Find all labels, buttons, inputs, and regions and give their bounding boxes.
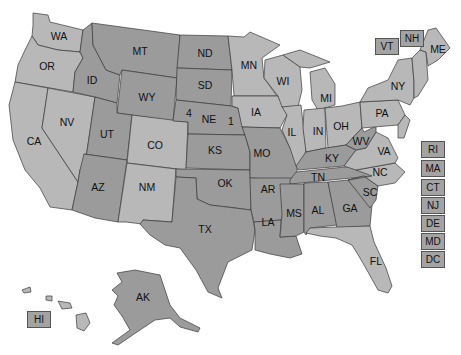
label-ak: AK bbox=[136, 291, 150, 303]
label-ne-district-1: 1 bbox=[228, 115, 234, 127]
label-mo: MO bbox=[254, 147, 271, 159]
label-tx: TX bbox=[198, 223, 211, 235]
label-wa: WA bbox=[51, 30, 68, 42]
label-mi: MI bbox=[320, 92, 332, 104]
state-hi-2[interactable] bbox=[46, 296, 52, 301]
label-ga: GA bbox=[342, 202, 357, 214]
label-ne-district-4: 4 bbox=[186, 107, 192, 119]
box-nj[interactable]: NJ bbox=[421, 197, 445, 214]
label-al: AL bbox=[312, 204, 325, 216]
label-co: CO bbox=[147, 139, 163, 151]
label-wi: WI bbox=[277, 75, 290, 87]
label-ny: NY bbox=[391, 80, 406, 92]
label-sd: SD bbox=[198, 79, 213, 91]
label-pa: PA bbox=[375, 107, 388, 119]
box-vt[interactable]: VT bbox=[375, 38, 399, 55]
label-ne: NE bbox=[202, 113, 217, 125]
label-mt: MT bbox=[132, 45, 148, 57]
label-nd: ND bbox=[197, 47, 213, 59]
label-wy: WY bbox=[139, 91, 156, 103]
label-id: ID bbox=[87, 74, 98, 86]
state-hi-3[interactable] bbox=[58, 301, 72, 309]
box-ri[interactable]: RI bbox=[421, 141, 445, 158]
label-az: AZ bbox=[91, 181, 105, 193]
state-nm[interactable] bbox=[118, 163, 176, 224]
label-sc: SC bbox=[363, 186, 378, 198]
label-ky: KY bbox=[325, 152, 339, 164]
label-in: IN bbox=[313, 125, 324, 137]
label-ks: KS bbox=[208, 144, 222, 156]
label-tn: TN bbox=[311, 171, 325, 183]
label-me: ME bbox=[430, 43, 446, 55]
box-ma[interactable]: MA bbox=[421, 160, 445, 177]
state-ak[interactable] bbox=[112, 270, 200, 345]
label-va: VA bbox=[377, 145, 390, 157]
label-oh: OH bbox=[333, 120, 349, 132]
state-ny[interactable] bbox=[360, 58, 414, 105]
box-hi[interactable]: HI bbox=[27, 311, 51, 328]
label-nv: NV bbox=[60, 116, 75, 128]
state-hi-1[interactable] bbox=[22, 287, 31, 293]
box-md[interactable]: MD bbox=[421, 233, 445, 250]
label-ca: CA bbox=[27, 135, 42, 147]
label-la: LA bbox=[262, 216, 275, 228]
box-ct[interactable]: CT bbox=[421, 179, 445, 196]
label-ut: UT bbox=[100, 128, 115, 140]
state-ne-states[interactable] bbox=[412, 50, 428, 98]
label-ms: MS bbox=[286, 207, 302, 219]
box-de[interactable]: DE bbox=[421, 215, 445, 232]
label-ok: OK bbox=[217, 177, 232, 189]
label-ia: IA bbox=[251, 106, 261, 118]
label-fl: FL bbox=[370, 255, 382, 267]
box-dc[interactable]: DC bbox=[421, 251, 445, 268]
label-nm: NM bbox=[139, 181, 155, 193]
state-hi-4[interactable] bbox=[76, 313, 90, 331]
label-wv: WV bbox=[353, 135, 370, 147]
label-nc: NC bbox=[372, 166, 388, 178]
label-il: IL bbox=[288, 126, 297, 138]
label-or: OR bbox=[39, 60, 55, 72]
label-mn: MN bbox=[241, 59, 257, 71]
label-ar: AR bbox=[261, 183, 276, 195]
box-nh[interactable]: NH bbox=[400, 30, 424, 47]
